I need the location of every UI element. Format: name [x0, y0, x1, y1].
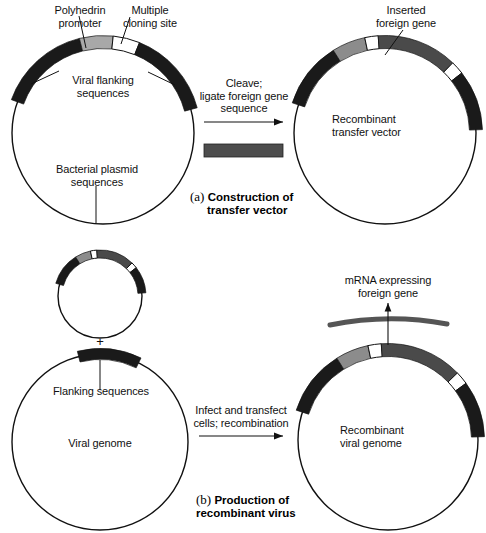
- caption-panel-b: (b) Production of recombinant virus: [196, 493, 296, 520]
- segment-flanking-sequences: [77, 349, 141, 368]
- segment-viral-flanking-left: [56, 257, 80, 286]
- caption-panel-a: (a) Construction of transfer vector: [190, 190, 293, 217]
- label-inserted-foreign-gene: Inserted foreign gene: [358, 4, 454, 29]
- segment-cloning-junction-left: [90, 250, 97, 259]
- segment-cloning-junction-left: [365, 36, 379, 51]
- plasmid-small-recombinant-vector: [56, 250, 146, 338]
- label-multiple-cloning-site: Multiple cloning site: [104, 4, 196, 29]
- process-arrow-a-head: [274, 119, 283, 126]
- caption-a-marker: (a): [190, 189, 204, 204]
- segment-polyhedrin-promoter: [337, 346, 371, 370]
- segment-inserted-foreign-gene: [378, 36, 453, 73]
- segment-polyhedrin-promoter: [333, 38, 367, 62]
- caption-a-line2: transfer vector: [207, 204, 288, 216]
- caption-b-marker: (b): [196, 492, 211, 507]
- label-recombinant-viral-genome: Recombinant viral genome: [340, 424, 446, 449]
- label-viral-flanking-sequences: Viral flanking sequences: [54, 74, 152, 99]
- label-plus-sign: +: [92, 336, 108, 349]
- plasmid-recombinant-viral-genome: [296, 303, 484, 530]
- label-mrna-expressing-foreign-gene: mRNA expressing foreign gene: [330, 274, 446, 299]
- label-cleave-ligate-step: Cleave; ligate foreign gene sequence: [190, 77, 298, 115]
- plasmid-transfer-vector: [11, 16, 197, 224]
- segment-viral-flanking-left: [292, 50, 340, 107]
- foreign-gene-fragment: [204, 144, 283, 157]
- label-bacterial-plasmid-sequences: Bacterial plasmid sequences: [41, 163, 153, 188]
- caption-a-line1: Construction of: [208, 191, 294, 203]
- label-recombinant-transfer-vector: Recombinant transfer vector: [332, 113, 438, 138]
- segment-viral-flanking-right: [456, 383, 485, 437]
- caption-b-line1: Production of: [214, 494, 289, 506]
- segment-inserted-foreign-gene: [381, 344, 457, 382]
- caption-b-line2: recombinant virus: [196, 507, 296, 519]
- cleave-ligate-step: [204, 119, 283, 158]
- segment-viral-flanking-right: [452, 73, 483, 130]
- segment-viral-flanking-left: [296, 358, 344, 414]
- segment-multiple-cloning-site: [112, 36, 140, 55]
- transcription-arrow-head: [385, 303, 392, 312]
- segment-viral-flanking-right: [130, 268, 146, 294]
- process-arrow-b-head: [274, 433, 283, 440]
- segment-cloning-junction-left: [368, 344, 382, 359]
- label-viral-genome: Viral genome: [45, 437, 155, 450]
- segment-inserted-foreign-gene: [97, 250, 132, 269]
- infect-transfect-step: [199, 433, 283, 440]
- figure-canvas: Polyhedrin promoter Multiple cloning sit…: [0, 0, 486, 533]
- label-infect-transfect-step: Infect and transfect cells; recombinatio…: [180, 404, 302, 429]
- label-flanking-sequences: Flanking sequences: [36, 385, 166, 398]
